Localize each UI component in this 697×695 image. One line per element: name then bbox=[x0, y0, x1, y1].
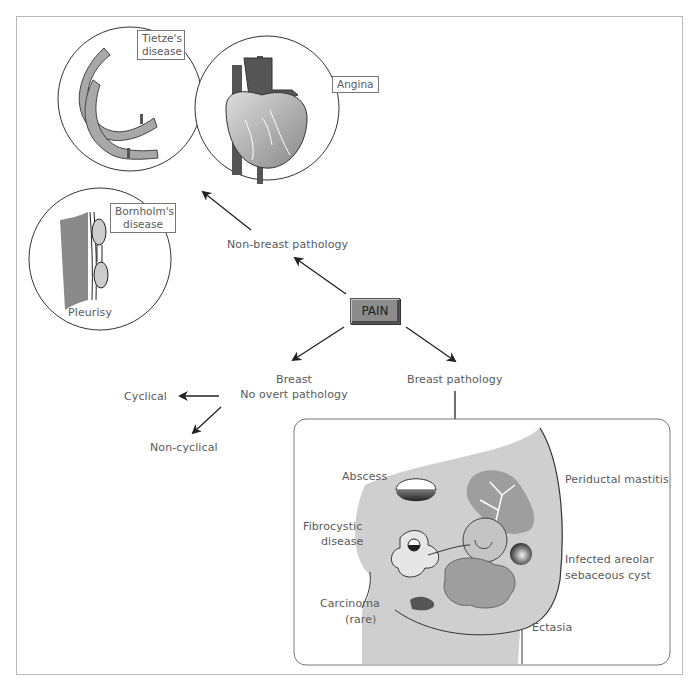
carcinoma-label-2: (rare) bbox=[345, 613, 377, 626]
angina-illustration bbox=[195, 36, 339, 184]
non-breast-pathology-label: Non-breast pathology bbox=[227, 238, 348, 251]
breast-no-overt-label-1: Breast bbox=[254, 373, 334, 386]
pain-node: PAIN bbox=[350, 298, 400, 324]
tietze-label: Tietze's disease bbox=[137, 30, 185, 60]
non-cyclical-label: Non-cyclical bbox=[150, 441, 218, 454]
tietze-text: Tietze's disease bbox=[142, 32, 182, 57]
carcinoma-label-1: Carcinoma bbox=[320, 597, 380, 610]
diagram-artwork bbox=[0, 0, 697, 695]
abscess-label: Abscess bbox=[342, 470, 387, 483]
fibrocystic-label-1: Fibrocystic bbox=[303, 520, 362, 533]
periductal-mastitis-label: Periductal mastitis bbox=[565, 473, 669, 486]
bornholm-label: Bornholm's disease bbox=[110, 203, 176, 233]
angina-label: Angina bbox=[332, 76, 379, 93]
ectasia-label: Ectasia bbox=[532, 621, 572, 634]
infected-cyst-label-1: Infected areolar bbox=[565, 553, 654, 566]
bornholm-text: Bornholm's disease bbox=[115, 205, 174, 230]
breast-no-overt-label-2: No overt pathology bbox=[234, 388, 354, 401]
breast-pathology-label: Breast pathology bbox=[407, 373, 503, 386]
angina-text: Angina bbox=[337, 78, 374, 90]
infected-cyst-label-2: sebaceous cyst bbox=[565, 569, 651, 582]
fibrocystic-label-2: disease bbox=[321, 535, 363, 548]
pleurisy-label: Pleurisy bbox=[68, 306, 112, 319]
cyclical-label: Cyclical bbox=[124, 390, 167, 403]
